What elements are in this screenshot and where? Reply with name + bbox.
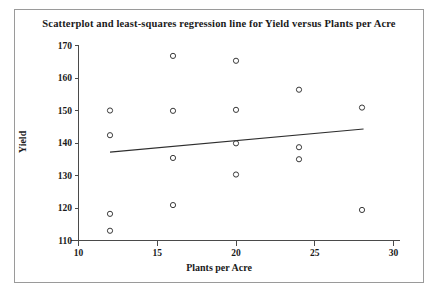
data-point — [296, 145, 301, 150]
y-tick-label: 110 — [48, 236, 72, 246]
data-point — [296, 157, 301, 162]
data-point — [233, 107, 238, 112]
x-tick-label: 30 — [389, 248, 399, 258]
x-tick-label: 15 — [153, 248, 163, 258]
x-tick-label: 20 — [231, 248, 241, 258]
figure-container: Scatterplot and least-squares regression… — [0, 0, 438, 300]
y-tick-label: 160 — [48, 73, 72, 83]
data-point — [233, 172, 238, 177]
x-axis-title: Plants per Acre — [0, 262, 438, 273]
data-point — [233, 141, 238, 146]
data-point — [359, 105, 364, 110]
data-point — [107, 108, 112, 113]
data-point — [233, 58, 238, 63]
data-points-group — [107, 53, 364, 233]
data-point — [170, 202, 175, 207]
y-axis-title: Yield — [17, 131, 28, 153]
data-point — [170, 155, 175, 160]
x-tick-label: 25 — [310, 248, 320, 258]
data-point — [170, 108, 175, 113]
data-point — [107, 211, 112, 216]
y-tick-label: 170 — [48, 41, 72, 51]
data-point — [170, 53, 175, 58]
x-tick-label: 10 — [74, 248, 84, 258]
data-point — [359, 207, 364, 212]
data-point — [107, 228, 112, 233]
y-tick-label: 120 — [48, 203, 72, 213]
data-point — [107, 133, 112, 138]
y-tick-label: 140 — [48, 138, 72, 148]
data-point — [296, 87, 301, 92]
y-tick-label: 150 — [48, 106, 72, 116]
y-tick-label: 130 — [48, 171, 72, 181]
